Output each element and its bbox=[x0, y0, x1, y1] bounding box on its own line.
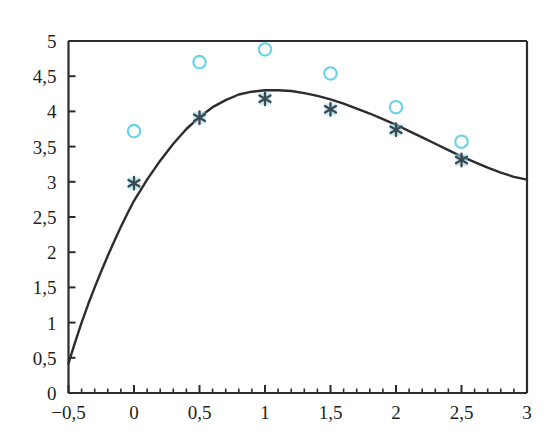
y-tick-label: 3,5 bbox=[0, 137, 57, 156]
x-tick-label: 2 bbox=[391, 403, 401, 422]
y-tick-label: 2 bbox=[0, 243, 57, 262]
x-tick-label: 1 bbox=[260, 403, 270, 422]
fitted-curve-line bbox=[69, 90, 528, 363]
y-tick-label: 1,5 bbox=[0, 278, 57, 297]
y-tick-label: 1 bbox=[0, 313, 57, 332]
y-tick-label: 4 bbox=[0, 102, 57, 121]
x-axis-ticks bbox=[69, 385, 528, 393]
x-tick-label: −0,5 bbox=[51, 403, 85, 422]
y-tick-label: 4,5 bbox=[0, 67, 57, 86]
y-tick-label: 0,5 bbox=[0, 348, 57, 367]
chart-figure: 00,511,522,533,544,55 −0,500,511,522,53 bbox=[0, 0, 560, 442]
y-tick-label: 2,5 bbox=[0, 208, 57, 227]
x-tick-label: 1,5 bbox=[319, 403, 343, 422]
open-circle-data-points bbox=[128, 43, 468, 148]
x-tick-label: 0,5 bbox=[188, 403, 212, 422]
y-tick-label: 5 bbox=[0, 32, 57, 51]
x-tick-label: 2,5 bbox=[450, 403, 474, 422]
y-tick-label: 3 bbox=[0, 172, 57, 191]
axis-frame bbox=[69, 41, 528, 393]
x-tick-label: 3 bbox=[522, 403, 532, 422]
star-data-points bbox=[128, 92, 468, 189]
x-tick-label: 0 bbox=[129, 403, 139, 422]
plot-canvas bbox=[0, 0, 560, 442]
y-tick-label: 0 bbox=[0, 384, 57, 403]
